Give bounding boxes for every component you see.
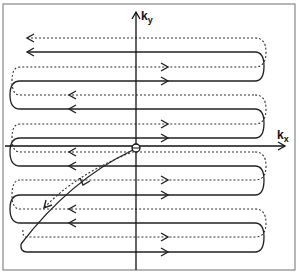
- ky-axis-label: ky: [141, 10, 153, 26]
- kx-subscript: x: [284, 134, 289, 144]
- origin-marker: [132, 144, 140, 152]
- axes: [5, 12, 285, 270]
- ky-subscript: y: [148, 15, 153, 25]
- kx-axis-label: kx: [277, 129, 289, 145]
- kx-letter: k: [277, 128, 284, 142]
- frame-border: [3, 4, 295, 270]
- k-space-trajectory-diagram: [0, 0, 299, 276]
- ky-letter: k: [141, 9, 148, 23]
